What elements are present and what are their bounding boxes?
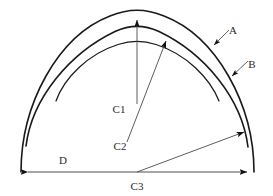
leader-line-b <box>232 61 248 76</box>
label-b: B <box>248 58 256 70</box>
arc-inner <box>56 41 219 101</box>
radius-line-c3 <box>137 132 244 172</box>
arch-geometry-diagram: A B C1 C2 C3 D <box>0 0 273 196</box>
label-d: D <box>59 154 67 166</box>
radius-line-c2 <box>127 41 166 142</box>
leader-line-a <box>214 30 229 45</box>
label-a: A <box>229 24 237 36</box>
arc-outer-shell <box>21 10 254 172</box>
diagram-canvas: A B C1 C2 C3 D <box>0 0 273 196</box>
label-c2: C2 <box>113 140 126 152</box>
label-c3: C3 <box>130 180 144 192</box>
label-c1: C1 <box>112 103 125 115</box>
